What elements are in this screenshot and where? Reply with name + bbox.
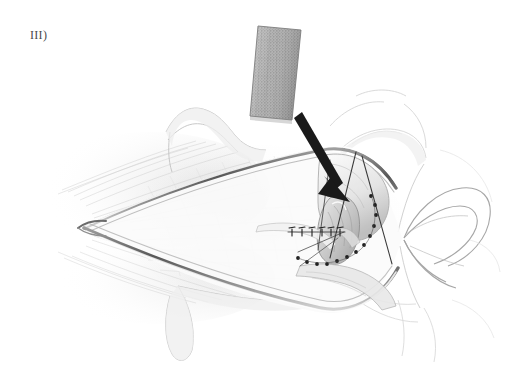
surgical-illustration — [0, 0, 512, 375]
mesh-graft-patch — [250, 26, 301, 124]
figure-root: III) — [0, 0, 512, 375]
